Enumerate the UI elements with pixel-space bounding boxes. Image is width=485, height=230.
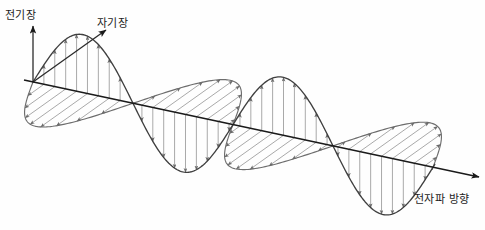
field-vector-arrow <box>196 86 239 117</box>
em-wave-canvas <box>0 0 485 230</box>
field-vector-arrow <box>228 133 273 165</box>
propagation-direction-label: 전자파 방향 <box>414 190 469 206</box>
field-vector-arrow <box>185 81 232 115</box>
field-vector-arrow <box>360 127 395 152</box>
field-vector-arrow <box>102 101 121 114</box>
magnetic-field-axis <box>33 30 106 82</box>
magnetic-field-label: 자기장 <box>97 14 128 30</box>
propagation-axis <box>24 80 479 177</box>
field-vector-arrow <box>403 134 441 161</box>
field-vector-arrow <box>41 94 88 127</box>
field-vector-arrow <box>392 126 437 158</box>
field-vector-arrow <box>292 142 316 159</box>
field-vector-arrow <box>175 80 221 112</box>
field-vector-arrow <box>142 96 155 105</box>
field-vector-arrow <box>225 131 262 157</box>
field-vector-arrow <box>25 87 55 108</box>
field-vector-arrow <box>414 144 440 163</box>
field-vector-arrow <box>30 91 76 124</box>
em-wave-figure: 전기장 자기장 전자파 방향 <box>0 0 485 230</box>
field-vector-arrow <box>153 88 181 108</box>
field-vector-arrow <box>77 98 109 121</box>
field-vector-arrow <box>269 140 305 166</box>
electric-field-label: 전기장 <box>5 6 36 22</box>
field-vector-arrow <box>349 133 372 149</box>
